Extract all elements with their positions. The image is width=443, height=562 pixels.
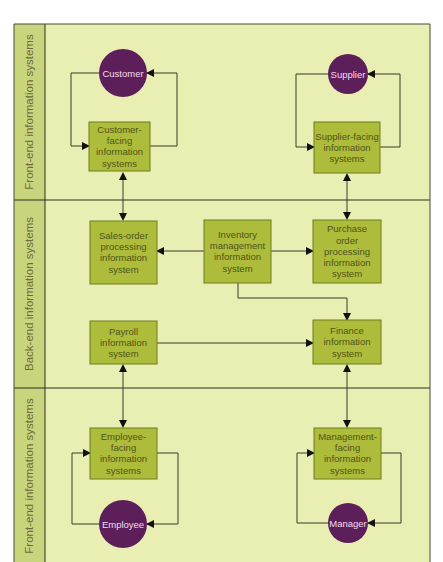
system-purchase-order-processing[interactable]: Purchaseorderprocessinginformationsystem [313, 220, 381, 283]
actor-employee[interactable]: Employee [99, 500, 147, 548]
system-label-line: facing [335, 442, 360, 453]
system-label-line: information [324, 336, 371, 347]
actor-manager-label: Manager [329, 518, 367, 529]
system-customer-facing[interactable]: Customer-facinginformationsystems [89, 122, 150, 171]
system-label-line: Supplier-facing [315, 131, 378, 142]
system-label-line: facing [111, 442, 136, 453]
actor-manager[interactable]: Manager [328, 503, 368, 543]
system-label-line: Payroll [109, 326, 138, 337]
system-label-line: information [324, 142, 371, 153]
system-label-line: information [100, 252, 147, 263]
system-label-line: Management- [318, 431, 377, 442]
system-label-line: system [108, 264, 138, 275]
system-label-line: system [108, 348, 138, 359]
system-label-line: systems [330, 465, 365, 476]
system-label-line: information [324, 257, 371, 268]
system-finance[interactable]: Financeinformationsystem [313, 320, 381, 364]
actor-employee-label: Employee [102, 519, 144, 530]
system-inventory-management[interactable]: Inventorymanagementinformationsystem [204, 220, 271, 283]
system-label-line: information [324, 453, 371, 464]
system-label-line: information [96, 146, 143, 157]
system-payroll[interactable]: Payrollinformationsystem [90, 321, 157, 364]
system-label-line: Customer- [97, 124, 141, 135]
system-label: Employee-facinginformationsystems [100, 431, 147, 476]
system-supplier-facing[interactable]: Supplier-facinginformationsystems [314, 122, 380, 173]
system-label-line: Purchase [327, 223, 367, 234]
system-label: Customer-facinginformationsystems [96, 124, 143, 169]
system-label-line: information [214, 251, 261, 262]
system-label-line: systems [330, 153, 365, 164]
actor-customer-label: Customer [102, 68, 143, 79]
lane-label-back-end: Back-end information systems [23, 217, 35, 371]
actor-supplier-label: Supplier [331, 69, 366, 80]
system-label-line: system [332, 268, 362, 279]
system-label-line: system [222, 263, 252, 274]
system-employee-facing[interactable]: Employee-facinginformationsystems [90, 428, 157, 479]
actor-customer[interactable]: Customer [99, 49, 147, 97]
system-label-line: Inventory [218, 229, 257, 240]
system-label-line: Employee- [101, 431, 146, 442]
system-label-line: information [100, 453, 147, 464]
lane-label-front-end-top: Front-end information systems [23, 34, 35, 190]
system-label-line: system [332, 348, 362, 359]
lane-background [14, 24, 430, 562]
system-label-line: Finance [330, 325, 364, 336]
system-label-line: processing [324, 246, 370, 257]
system-label-line: management [210, 240, 266, 251]
system-label-line: order [336, 235, 358, 246]
system-label-line: Sales-order [99, 230, 148, 241]
system-label-line: systems [106, 465, 141, 476]
actor-supplier[interactable]: Supplier [328, 54, 368, 94]
information-systems-diagram: Front-end information systems Back-end i… [0, 0, 443, 562]
lane-label-front-end-bottom: Front-end information systems [23, 398, 35, 554]
swimlanes: Front-end information systems Back-end i… [14, 24, 430, 562]
system-label-line: facing [107, 135, 132, 146]
system-label-line: information [100, 337, 147, 348]
system-label-line: systems [102, 158, 137, 169]
system-sales-order-processing[interactable]: Sales-orderprocessinginformationsystem [90, 221, 157, 284]
system-label-line: processing [101, 241, 147, 252]
system-management-facing[interactable]: Management-facinginformationsystems [314, 428, 381, 479]
